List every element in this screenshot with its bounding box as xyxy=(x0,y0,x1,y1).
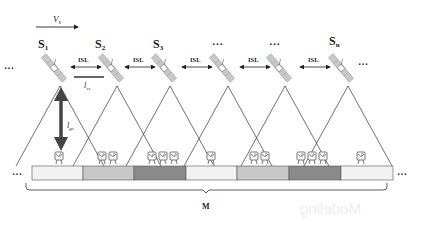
svg-text:ISL: ISL xyxy=(190,56,201,63)
satellite-icon xyxy=(328,51,356,82)
strip-segment xyxy=(341,166,393,180)
ground-station-icon xyxy=(207,152,215,164)
strip-segment xyxy=(289,166,341,180)
ground-station-icon xyxy=(170,152,178,164)
ground-distance-indicator: lgs xyxy=(61,94,74,144)
isl-distance-indicator: lss xyxy=(74,77,104,91)
strip-segment xyxy=(237,166,289,180)
strip-segment xyxy=(134,166,186,180)
ground-station-icon xyxy=(308,152,316,164)
ground-station-icon xyxy=(148,152,156,164)
satellite-network-diagram: Vs S1 S2 S3 … … Sn ··· ··· ISL ISL ISL I… xyxy=(0,0,422,225)
strip-segment xyxy=(186,166,237,180)
region-label: M xyxy=(202,202,210,211)
ground-station-icon xyxy=(55,152,63,164)
svg-text:lss: lss xyxy=(84,81,90,91)
ground-station-icon xyxy=(261,152,269,164)
region-brace xyxy=(26,183,387,193)
ground-station-icon xyxy=(159,152,167,164)
ground-station-icon xyxy=(109,152,117,164)
ground-station-icon xyxy=(319,152,327,164)
svg-text:lgs: lgs xyxy=(67,121,74,131)
bleed-through-text: Modeling xyxy=(300,200,361,217)
ground-station-icon xyxy=(250,152,258,164)
satellite-icon xyxy=(209,51,237,82)
strip-segment xyxy=(83,166,134,180)
ground-region-strip xyxy=(32,166,393,180)
ground-station-icon xyxy=(357,152,365,164)
svg-text:ISL: ISL xyxy=(308,56,319,63)
strip-ellipsis-right: ··· xyxy=(397,169,407,180)
sat-label-4: … xyxy=(212,35,223,47)
sat-label-5: … xyxy=(269,35,280,47)
satellite-icon xyxy=(151,51,179,82)
strip-ellipsis-left: ··· xyxy=(12,169,22,180)
svg-text:ISL: ISL xyxy=(78,56,89,63)
sat-label-2: S2 xyxy=(95,37,106,52)
ground-station-icon xyxy=(297,152,305,164)
sat-label-1: S1 xyxy=(38,37,49,52)
satellite-labels: S1 S2 S3 … … Sn xyxy=(38,34,340,52)
svg-text:ISL: ISL xyxy=(133,56,144,63)
satellite-icon xyxy=(41,51,69,82)
svg-text:ISL: ISL xyxy=(248,56,259,63)
svg-text:Vs: Vs xyxy=(53,14,62,25)
sat-label-n: Sn xyxy=(329,34,340,49)
velocity-indicator: Vs xyxy=(36,14,78,27)
strip-segment xyxy=(32,166,83,180)
sat-label-3: S3 xyxy=(153,37,164,52)
sat-ellipsis-left: ··· xyxy=(4,63,14,74)
satellite-icon xyxy=(266,51,294,82)
ground-stations xyxy=(55,152,365,164)
sat-ellipsis-right: ··· xyxy=(358,59,368,70)
